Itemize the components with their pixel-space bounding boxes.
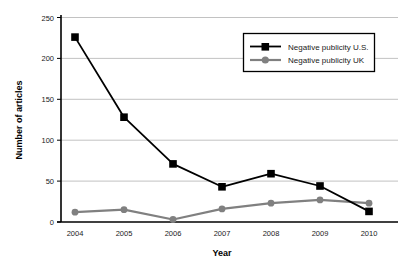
line-chart: 250 200 150 100 50 0 2004 2005 2006 2007…: [0, 0, 415, 272]
y-tick-label-200: 200: [41, 54, 54, 63]
y-tick-label-100: 100: [41, 136, 54, 145]
chart-svg: 250 200 150 100 50 0 2004 2005 2006 2007…: [0, 0, 415, 272]
data-point-uk-2009: [317, 197, 324, 204]
y-tick-label-0: 0: [50, 218, 54, 227]
legend-box: [244, 34, 375, 72]
legend-marker-uk: [262, 56, 269, 63]
x-axis-title: Year: [212, 248, 232, 258]
data-point-uk-2007: [219, 206, 226, 213]
legend-label-uk: Negative publicity UK: [288, 56, 365, 65]
data-point-uk-2006: [170, 216, 177, 223]
x-tick-label-2010: 2010: [361, 229, 378, 238]
y-tick-label-150: 150: [41, 95, 54, 104]
x-tick-label-2004: 2004: [67, 229, 84, 238]
chart-legend[interactable]: Negative publicity U.S. Negative publici…: [244, 34, 375, 72]
x-tick-label-2006: 2006: [165, 229, 182, 238]
y-axis-title: Number of articles: [14, 80, 24, 159]
legend-item-us[interactable]: Negative publicity U.S.: [250, 43, 368, 52]
data-point-us-2007: [218, 183, 226, 191]
data-point-us-2005: [120, 113, 128, 121]
data-point-us-2004: [71, 33, 79, 41]
data-point-us-2006: [169, 160, 177, 168]
x-tick-label-2009: 2009: [312, 229, 329, 238]
x-tick-label-2008: 2008: [263, 229, 280, 238]
data-point-uk-2005: [121, 206, 128, 213]
data-point-uk-2004: [72, 209, 79, 216]
y-tick-label-250: 250: [41, 14, 54, 23]
data-point-us-2008: [267, 170, 275, 178]
legend-label-us: Negative publicity U.S.: [288, 43, 368, 52]
legend-marker-us: [262, 43, 270, 51]
data-point-us-2009: [316, 182, 324, 190]
data-point-uk-2010: [366, 200, 373, 207]
data-point-us-2010: [365, 208, 373, 216]
x-tick-label-2005: 2005: [116, 229, 133, 238]
x-tick-label-2007: 2007: [214, 229, 231, 238]
data-point-uk-2008: [268, 200, 275, 207]
y-tick-label-50: 50: [46, 177, 54, 186]
